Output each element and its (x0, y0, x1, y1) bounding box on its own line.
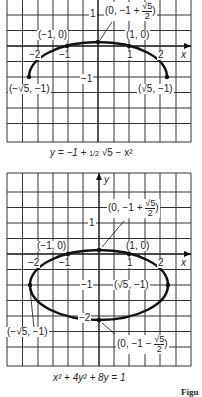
graph1-grid (7, 0, 191, 142)
g1-xtick-neg1: −1 (58, 50, 71, 60)
g1-label-top-point: (0, −1 + √52) (104, 2, 157, 21)
g2-xtick-neg1: −1 (58, 258, 71, 268)
g1-ytick-neg1: −1 (80, 74, 93, 84)
g2-label-neg-sqrt5: (−√5, −1) (6, 327, 49, 337)
g2-y-axis-label: y (103, 175, 110, 185)
g2-label-bottom-point: (0, −1 − √52) (116, 335, 169, 354)
g1-xtick-neg2: −2 (28, 50, 41, 60)
g1-xtick-1: 1 (126, 50, 134, 60)
g2-label-top-point: (0, −1 + √52) (107, 199, 160, 218)
g2-xtick-neg2: −2 (27, 258, 40, 268)
g1-label-neg1-0: (−1, 0) (37, 30, 68, 40)
graph1-axes (7, 0, 191, 142)
g1-label-neg-sqrt5: (−√5, −1) (8, 84, 51, 94)
g1-xtick-2: 2 (157, 50, 165, 60)
figure-label: Figu (181, 387, 199, 397)
g2-xtick-2: 2 (157, 258, 165, 268)
g1-label-sqrt5: (√5, −1) (137, 84, 174, 94)
graph2-y-arrow-icon (96, 173, 102, 180)
g1-caption: y = −1 + 1/2 √5 − x² (50, 147, 133, 158)
g1-x-axis-label: x (180, 50, 187, 60)
g2-x-axis-label: x (180, 258, 187, 268)
g1-label-1-0: (1, 0) (125, 30, 150, 40)
g2-label-1-0: (1, 0) (125, 241, 150, 251)
g2-ytick-neg1: −1 (80, 280, 93, 290)
g2-ytick-1: 1 (88, 218, 96, 228)
g2-label-sqrt5: (√5, −1) (113, 280, 150, 290)
g2-xtick-1: 1 (126, 258, 134, 268)
g2-label-neg1-0: (−1, 0) (36, 241, 67, 251)
g1-ytick-1: 1 (89, 9, 97, 19)
g2-caption: x² + 4y² + 8y = 1 (53, 372, 126, 383)
g2-ytick-neg2: −2 (78, 313, 91, 323)
